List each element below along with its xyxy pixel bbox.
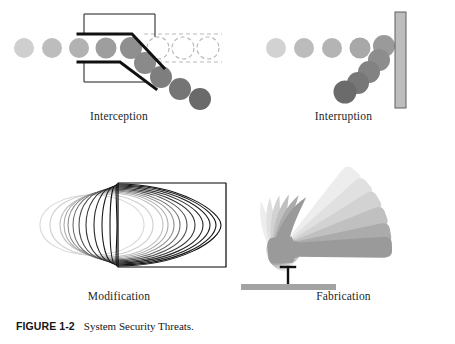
figure-caption-number: FIGURE 1-2 (16, 320, 75, 332)
interruption-incoming-circles (266, 38, 371, 59)
figure-caption-title: System Security Threats. (84, 320, 194, 332)
panel-label-interruption: Interruption (236, 110, 451, 122)
panel-modification: Modification (8, 150, 230, 310)
panel-fabrication: Fabrication (236, 142, 451, 310)
figure-caption: FIGURE 1-2System Security Threats. (16, 320, 194, 332)
panel-interruption: Interruption (236, 6, 451, 134)
panel-label-modification: Modification (8, 290, 230, 302)
panel-label-interception: Interception (8, 110, 230, 122)
figure-1-2: Interception Interruption (0, 0, 455, 344)
interruption-illustration (236, 6, 451, 110)
interception-incoming-circles (14, 37, 142, 59)
interception-illustration (8, 6, 230, 110)
panel-interception: Interception (8, 6, 230, 134)
fabrication-illustration (236, 142, 451, 290)
interception-ghost-circles (147, 37, 219, 59)
modification-morph-outlines (40, 183, 226, 267)
modification-illustration (8, 150, 230, 290)
panel-label-fabrication: Fabrication (236, 290, 451, 302)
interruption-barrier (395, 12, 406, 108)
